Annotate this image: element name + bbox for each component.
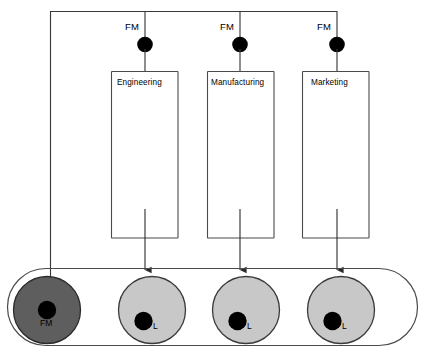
diagram-canvas: FM FM FM Engineering Manufacturing Marke… <box>0 0 434 355</box>
department-label-manufacturing: Manufacturing <box>211 79 264 87</box>
diagram-vector-layer <box>0 0 434 355</box>
pool-node-label-leader-3: L <box>342 322 347 331</box>
branch-marketing <box>303 11 370 270</box>
pool-node-dot-leader-2 <box>228 312 246 330</box>
pool-node-label-leader-1: L <box>153 322 158 331</box>
bus-line-group <box>50 11 337 311</box>
pool-node-dot-leader-1 <box>134 312 152 330</box>
pool-node-circle-leader-2 <box>213 277 280 344</box>
branch-manufacturing <box>208 11 275 270</box>
pool-node-label-fm: FM <box>40 319 52 328</box>
fm-label-marketing: FM <box>311 22 331 32</box>
branch-engineering <box>112 11 179 270</box>
pool-node-fm <box>14 277 81 344</box>
pool-node-circle-leader-3 <box>308 277 375 344</box>
pool-node-label-leader-2: L <box>247 322 252 331</box>
resource-pool <box>8 269 418 346</box>
pool-node-leader-3 <box>308 277 375 344</box>
pool-node-dot-leader-3 <box>323 312 341 330</box>
pool-node-leader-1 <box>119 277 186 344</box>
pool-node-leader-2 <box>213 277 280 344</box>
pool-node-dot-fm <box>38 301 56 319</box>
pool-node-circle-leader-1 <box>119 277 186 344</box>
fm-label-manufacturing: FM <box>214 22 234 32</box>
department-box-marketing <box>303 72 370 239</box>
department-box-manufacturing <box>208 72 275 239</box>
department-label-engineering: Engineering <box>117 79 162 87</box>
department-label-marketing: Marketing <box>311 79 348 87</box>
fm-label-engineering: FM <box>119 22 139 32</box>
